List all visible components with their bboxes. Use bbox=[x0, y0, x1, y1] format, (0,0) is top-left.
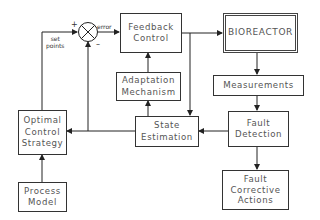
feedback-control-block: Feedback Control bbox=[120, 13, 182, 53]
measurements-block: Measurements bbox=[213, 75, 304, 96]
adaptation-mechanism-block: Adaptation Mechanism bbox=[116, 72, 181, 101]
summing-junction bbox=[79, 23, 98, 42]
error-label: error bbox=[97, 23, 112, 30]
set-points-label: set points bbox=[46, 35, 64, 49]
process-model-block: Process Model bbox=[18, 182, 67, 212]
fault-detection-block: Fault Detection bbox=[228, 111, 289, 147]
plus-sign: + bbox=[71, 20, 78, 29]
state-estimation-block: State Estimation bbox=[135, 116, 199, 147]
fault-corrective-actions-block: Fault Corrective Actions bbox=[222, 170, 289, 210]
bioreactor-block: BIOREACTOR bbox=[223, 13, 298, 53]
optimal-control-strategy-block: Optimal Control Strategy bbox=[18, 110, 67, 155]
minus-sign: – bbox=[96, 40, 100, 49]
